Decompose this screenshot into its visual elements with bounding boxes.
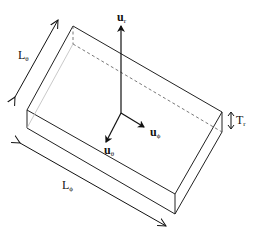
u-phi-arrow: [121, 113, 144, 127]
slab-box: [27, 26, 222, 214]
t-r-dimension-arrow: [228, 112, 234, 129]
hidden-edges: [73, 26, 222, 132]
axes: [106, 26, 144, 142]
l-phi-dimension-arrow: [20, 143, 166, 226]
diagram-drawing: [0, 0, 259, 239]
hidden-left-bottom-edge: [27, 44, 73, 128]
label-l-theta: Lθ: [18, 49, 29, 61]
slab-diagram: ur uϕ uθ Lθ Lϕ Tr: [0, 0, 259, 239]
u-theta-arrow: [106, 113, 121, 142]
bottom-right-edge: [175, 132, 222, 214]
label-t-r: Tr: [236, 114, 246, 126]
label-u-phi: uϕ: [150, 126, 160, 138]
label-u-theta: uθ: [104, 144, 114, 156]
top-face-edge: [27, 26, 222, 194]
label-u-r: ur: [117, 11, 126, 23]
label-l-phi: Lϕ: [62, 179, 73, 191]
bottom-front-edge: [27, 128, 175, 214]
